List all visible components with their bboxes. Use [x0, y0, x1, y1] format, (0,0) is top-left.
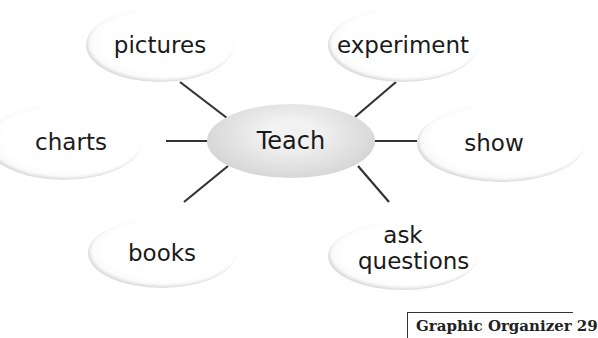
- node-label: books: [128, 240, 196, 266]
- graphic-organizer-number: Graphic Organizer 29: [416, 317, 598, 335]
- node-ask-questions: ask questions: [328, 222, 478, 290]
- center-label: Teach: [257, 128, 325, 154]
- node-label: charts: [35, 129, 107, 155]
- node-pictures: pictures: [86, 8, 234, 82]
- node-experiment: experiment: [328, 8, 478, 82]
- footer-label-box: Graphic Organizer 29: [407, 312, 573, 338]
- center-node-teach: Teach: [207, 104, 375, 178]
- node-label: pictures: [114, 32, 206, 58]
- node-show: show: [417, 104, 585, 182]
- node-books: books: [88, 218, 236, 288]
- node-label: show: [464, 130, 523, 156]
- node-label: experiment: [337, 32, 469, 58]
- node-label: ask questions: [358, 222, 448, 274]
